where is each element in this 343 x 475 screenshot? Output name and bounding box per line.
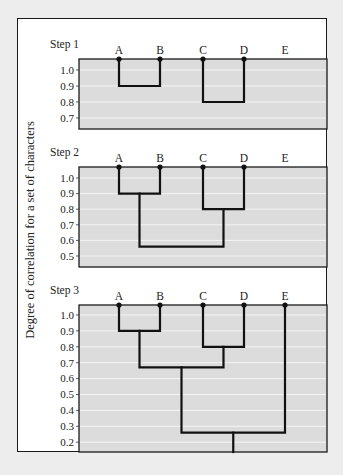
tick-label: 0.9 <box>60 187 74 199</box>
tick-label: 1.0 <box>60 172 74 184</box>
tick-label: 0.5 <box>60 388 74 400</box>
tick-label: 1.0 <box>60 309 74 321</box>
leaf-label-a: A <box>115 152 124 164</box>
tick-label: 0.6 <box>60 234 74 246</box>
tick-label: 0.3 <box>60 420 74 432</box>
leaf-label-e: E <box>281 44 288 56</box>
leaf-label-d: D <box>240 152 248 164</box>
tick-label: 0.2 <box>60 436 74 448</box>
leaf-label-b: B <box>156 290 164 302</box>
leaf-node-b <box>157 302 162 307</box>
tick-label: 0.8 <box>60 203 74 215</box>
leaf-label-a: A <box>115 44 124 56</box>
tick-label: 0.8 <box>60 341 74 353</box>
leaf-node-c <box>200 56 205 61</box>
leaf-label-d: D <box>240 44 248 56</box>
tick-label: 0.7 <box>60 219 74 231</box>
leaf-node-c <box>200 164 205 169</box>
leaf-label-b: B <box>156 152 164 164</box>
tick-label: 0.5 <box>60 250 74 262</box>
leaf-label-a: A <box>115 290 124 302</box>
leaf-node-b <box>157 164 162 169</box>
panel-step-1: Step 11.00.90.80.7ABCDE <box>50 38 327 129</box>
leaf-node-e <box>282 302 287 307</box>
tick-label: 0.9 <box>60 80 74 92</box>
panel-step-3: Step 31.00.90.80.70.60.50.40.30.2ABCDE <box>50 284 327 452</box>
tick-label: 0.7 <box>60 112 74 124</box>
leaf-label-e: E <box>281 290 288 302</box>
leaf-label-d: D <box>240 290 248 302</box>
step-title: Step 1 <box>50 38 79 51</box>
tick-label: 0.9 <box>60 325 74 337</box>
leaf-node-d <box>241 164 246 169</box>
leaf-node-c <box>200 302 205 307</box>
leaf-label-b: B <box>156 44 164 56</box>
leaf-label-e: E <box>281 152 288 164</box>
leaf-label-c: C <box>199 290 207 302</box>
leaf-node-a <box>116 302 121 307</box>
tick-label: 0.6 <box>60 372 74 384</box>
leaf-label-c: C <box>199 44 207 56</box>
tick-label: 0.8 <box>60 96 74 108</box>
leaf-node-a <box>116 164 121 169</box>
leaf-node-d <box>241 56 246 61</box>
tick-label: 1.0 <box>60 64 74 76</box>
panel-step-2: Step 21.00.90.80.70.60.5ABCDE <box>50 146 327 267</box>
step-title: Step 2 <box>50 146 79 159</box>
tick-label: 0.7 <box>60 357 74 369</box>
step-title: Step 3 <box>50 284 79 297</box>
dendrogram-panels: Step 11.00.90.80.7ABCDEStep 21.00.90.80.… <box>0 0 343 475</box>
leaf-label-c: C <box>199 152 207 164</box>
leaf-node-d <box>241 302 246 307</box>
leaf-node-a <box>116 56 121 61</box>
tick-label: 0.4 <box>60 404 74 416</box>
leaf-node-b <box>157 56 162 61</box>
